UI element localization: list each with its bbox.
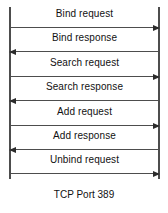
message-row: Search response (9, 80, 160, 104)
arrow-left-icon (9, 147, 16, 153)
arrow-right-icon (153, 123, 160, 129)
message-label: Add response (9, 130, 160, 142)
arrow-shaft (10, 149, 159, 150)
message-row: Add response (9, 129, 160, 153)
message-label: Add request (9, 106, 160, 118)
message-label: Search response (9, 81, 160, 93)
arrow-shaft (10, 100, 159, 101)
arrow-right-icon (153, 74, 160, 80)
message-label: Search request (9, 57, 160, 69)
message-row: Unbind request (9, 153, 160, 177)
message-row: Bind response (9, 31, 160, 55)
arrow-shaft (10, 51, 159, 52)
arrow-right-icon (153, 171, 160, 177)
arrow-shaft (10, 125, 159, 126)
arrow-left-icon (9, 98, 16, 104)
message-label: Unbind request (9, 154, 160, 166)
message-list: Bind requestBind responseSearch requestS… (0, 0, 168, 180)
sequence-diagram: Bind requestBind responseSearch requestS… (0, 0, 168, 213)
message-row: Bind request (9, 7, 160, 31)
message-label: Bind request (9, 8, 160, 20)
arrow-shaft (10, 76, 159, 77)
message-row: Add request (9, 105, 160, 129)
message-label: Bind response (9, 32, 160, 44)
arrow-left-icon (9, 49, 16, 55)
arrow-shaft (10, 27, 159, 28)
arrow-right-icon (153, 25, 160, 31)
diagram-caption: TCP Port 389 (0, 189, 168, 201)
arrow-shaft (10, 173, 159, 174)
message-row: Search request (9, 56, 160, 80)
